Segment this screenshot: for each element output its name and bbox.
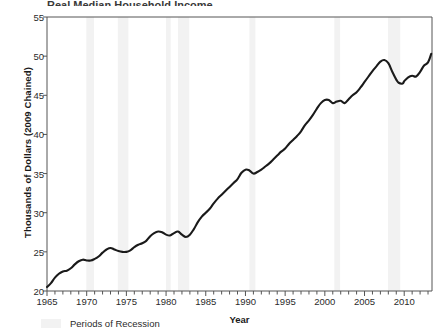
x-tick-label: 2000 [305,296,345,307]
y-tick-label: 50 [24,51,44,62]
y-tick-label: 20 [24,286,44,297]
x-tick-label: 1995 [265,296,305,307]
recession-legend-swatch [41,319,61,328]
y-tick-label: 40 [24,129,44,140]
y-tick-label: 35 [24,168,44,179]
y-tick-labels: 2025303540455055 [20,0,44,336]
x-tick-label: 1970 [67,296,107,307]
x-tick-label: 2010 [384,296,424,307]
chart-container: Real Median Household Income Thousands o… [0,0,446,336]
recession-bands-group [86,17,400,291]
income-line-series [47,54,431,287]
plot-area [0,0,446,336]
legend: Periods of Recession [41,318,160,329]
x-tick-label: 1980 [146,296,186,307]
y-tick-label: 30 [24,207,44,218]
x-tick-label: 1975 [106,296,146,307]
x-tick-label: 1965 [27,296,67,307]
y-tick-label: 25 [24,246,44,257]
y-tick-label: 55 [24,12,44,23]
chart-title-cutoff: Real Median Household Income [47,0,297,6]
x-tick-label: 2005 [345,296,385,307]
x-tick-label: 1985 [186,296,226,307]
recession-legend-label: Periods of Recession [70,318,160,329]
y-tick-label: 45 [24,90,44,101]
x-tick-label: 1990 [225,296,265,307]
